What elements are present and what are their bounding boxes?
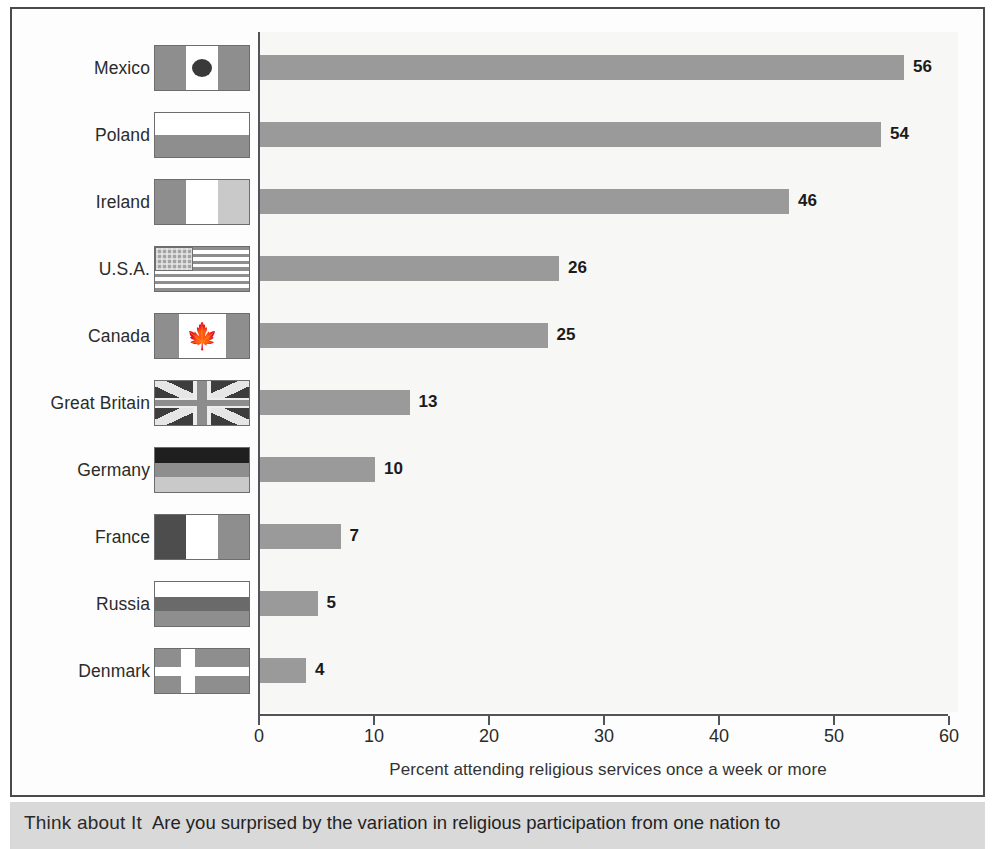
bar-denmark [260,658,306,683]
x-tick-mark [948,716,950,725]
x-tick-label: 0 [254,726,264,747]
row-label-holder: Poland [12,109,150,161]
flag-band [155,597,249,612]
x-tick-label: 10 [364,726,384,747]
flag-band [155,582,249,597]
x-tick-mark [718,716,720,725]
bar-value-great-britain: 13 [419,389,438,415]
caption-body: Are you surprised by the variation in re… [152,812,780,833]
row-label-holder: Mexico [12,42,150,94]
flag-stripe [155,288,249,291]
bar-usa [260,256,559,281]
flag-band [155,611,249,626]
bar-value-denmark: 4 [315,657,324,683]
x-tick-label: 40 [709,726,729,747]
x-tick-label: 20 [479,726,499,747]
flag-icon-poland [154,112,250,158]
category-label-russia: Russia [20,578,150,630]
flag-band [155,113,249,135]
chart-row: Ireland46 [12,176,972,228]
bar-value-ireland: 46 [798,188,817,214]
flag-band [155,463,249,478]
row-label-holder: Germany [12,444,150,496]
flag-icon-germany [154,447,250,493]
row-label-holder: France [12,511,150,563]
row-label-holder: U.S.A. [12,243,150,295]
row-label-holder: Denmark [12,645,150,697]
category-label-france: France [20,511,150,563]
flag-cross-horizontal [155,667,249,677]
flag-icon-great-britain [154,380,250,426]
bar-value-germany: 10 [384,456,403,482]
x-tick-label: 60 [939,726,959,747]
chart-row: Canada🍁25 [12,310,972,362]
bar-germany [260,457,375,482]
x-tick-mark [488,716,490,725]
flag-band [186,515,217,559]
row-label-holder: Ireland [12,176,150,228]
bar-value-mexico: 56 [913,54,932,80]
flag-band [218,180,249,224]
bar-poland [260,122,881,147]
row-label-holder: Great Britain [12,377,150,429]
bar-russia [260,591,318,616]
flag-band [218,515,249,559]
flag-band [155,180,186,224]
flag-icon-france [154,514,250,560]
x-tick-label: 30 [594,726,614,747]
flag-icon-mexico [154,45,250,91]
bar-great-britain [260,390,410,415]
bar-value-france: 7 [350,523,359,549]
row-label-holder: Russia [12,578,150,630]
flag-emblem [192,59,212,77]
bar-value-russia: 5 [327,590,336,616]
bar-ireland [260,189,789,214]
bar-value-canada: 25 [557,322,576,348]
flag-icon-canada: 🍁 [154,313,250,359]
chart-row: Germany10 [12,444,972,496]
x-tick-mark [373,716,375,725]
flag-band [155,448,249,463]
flag-canton-stars [156,248,192,270]
category-label-germany: Germany [20,444,150,496]
flag-band [226,314,250,358]
flag-icon-usa [154,246,250,292]
chart-row: Great Britain13 [12,377,972,429]
category-label-mexico: Mexico [20,42,150,94]
category-label-great-britain: Great Britain [20,377,150,429]
flag-maple-leaf: 🍁 [186,323,218,349]
flag-band [218,46,249,90]
caption-band: Think about ItAre you surprised by the v… [10,802,985,849]
bar-chart: Mexico56Poland54Ireland46U.S.A.26Canada🍁… [12,9,983,795]
category-label-canada: Canada [20,310,150,362]
x-axis-title: Percent attending religious services onc… [258,760,958,780]
row-label-holder: Canada [12,310,150,362]
bar-mexico [260,55,904,80]
category-label-usa: U.S.A. [20,243,150,295]
flag-icon-ireland [154,179,250,225]
category-label-poland: Poland [20,109,150,161]
flag-band [155,515,186,559]
bar-france [260,524,341,549]
bar-value-poland: 54 [890,121,909,147]
category-label-ireland: Ireland [20,176,150,228]
flag-band [155,46,186,90]
category-label-denmark: Denmark [20,645,150,697]
figure-frame: Mexico56Poland54Ireland46U.S.A.26Canada🍁… [10,7,985,797]
flag-band [155,135,249,157]
chart-row: Denmark4 [12,645,972,697]
chart-row: U.S.A.26 [12,243,972,295]
bar-value-usa: 26 [568,255,587,281]
flag-band [155,477,249,492]
x-tick-label: 50 [824,726,844,747]
chart-row: Russia5 [12,578,972,630]
flag-icon-denmark [154,648,250,694]
x-tick-mark [258,716,260,725]
caption-text: Think about ItAre you surprised by the v… [24,812,780,834]
caption-lead: Think about It [24,812,142,833]
flag-icon-russia [154,581,250,627]
flag-cross-horizontal-inner [155,400,249,406]
flag-band [186,180,217,224]
x-tick-mark [833,716,835,725]
x-tick-mark [603,716,605,725]
